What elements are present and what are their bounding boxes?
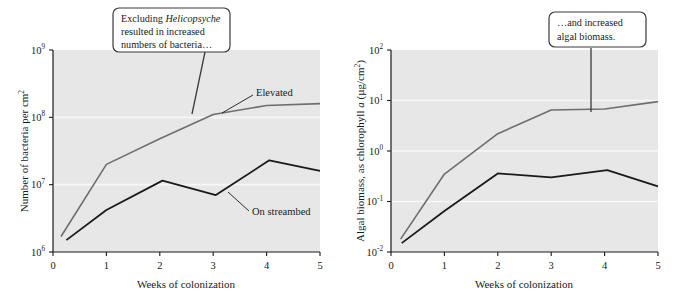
panel-algae: 10-210-1100101102 012345 Algal biomass, … xyxy=(338,0,675,305)
y-tick-label: 108 xyxy=(31,110,46,123)
x-tick-label: 0 xyxy=(388,260,393,271)
x-tick-label: 2 xyxy=(495,260,500,271)
y-axis-tick-labels: 10-210-1100101102 xyxy=(367,43,384,258)
callout-line-3: numbers of bacteria… xyxy=(121,39,212,50)
algae-chart-svg: 10-210-1100101102 012345 Algal biomass, … xyxy=(338,0,675,305)
x-tick-label: 4 xyxy=(602,260,608,271)
x-tick-label: 4 xyxy=(264,260,270,271)
x-tick-label: 3 xyxy=(211,260,216,271)
x-tick-label: 1 xyxy=(442,260,447,271)
series-label-elevated: Elevated xyxy=(256,87,293,98)
x-tick-label: 5 xyxy=(317,260,322,271)
y-tick-label: 100 xyxy=(369,144,384,157)
y-tick-label: 101 xyxy=(369,94,384,107)
x-axis-title: Weeks of colonization xyxy=(475,278,574,290)
figure-root: 106107108109 012345 Number of bacteria p… xyxy=(0,0,675,305)
y-tick-label: 107 xyxy=(31,178,46,191)
panel-bacteria: 106107108109 012345 Number of bacteria p… xyxy=(0,0,337,305)
x-tick-label: 2 xyxy=(157,260,162,271)
x-tick-label: 1 xyxy=(104,260,109,271)
x-axis-tick-labels: 012345 xyxy=(50,260,322,271)
y-axis-tick-labels: 106107108109 xyxy=(31,43,46,258)
y-axis-title: Algal biomass, as chlorophyll a (µg/cm2) xyxy=(353,60,367,242)
x-tick-label: 0 xyxy=(50,260,55,271)
x-axis-tick-labels: 012345 xyxy=(388,260,660,271)
callout-line-1: …and increased xyxy=(557,17,623,28)
series-label-on-streambed: On streambed xyxy=(252,206,311,217)
callout-line-1: Excluding Helicopsyche xyxy=(121,13,221,24)
y-axis-title: Number of bacteria per cm2 xyxy=(17,90,30,213)
bacteria-chart-svg: 106107108109 012345 Number of bacteria p… xyxy=(0,0,337,305)
y-tick-label: 10-2 xyxy=(367,245,384,258)
plot-background xyxy=(53,50,320,252)
x-tick-label: 5 xyxy=(655,260,660,271)
y-tick-label: 106 xyxy=(31,245,46,258)
y-tick-label: 10-1 xyxy=(367,195,384,208)
x-axis-title: Weeks of colonization xyxy=(137,278,236,290)
callout-line-2: resulted in increased xyxy=(121,26,205,37)
x-tick-label: 3 xyxy=(549,260,554,271)
y-tick-label: 102 xyxy=(369,43,384,56)
callout-line-2: algal biomass. xyxy=(557,31,615,42)
y-tick-label: 109 xyxy=(31,43,46,56)
y-axis-tick-marks xyxy=(387,50,391,252)
